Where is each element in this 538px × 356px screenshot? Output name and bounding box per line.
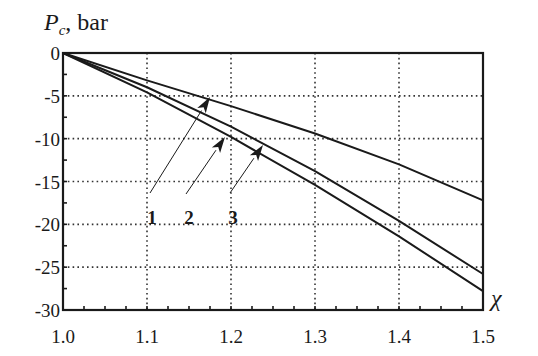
arrowhead-icon bbox=[212, 137, 225, 153]
y-tick-label: 0 bbox=[51, 43, 61, 64]
x-axis-title: χ bbox=[489, 285, 503, 311]
x-tick-label: 1.4 bbox=[387, 326, 411, 347]
curve-labels: 123 bbox=[147, 207, 238, 228]
x-tick-label: 1.0 bbox=[51, 326, 75, 347]
y-tick-label: -25 bbox=[35, 257, 60, 278]
y-tick-label: -30 bbox=[35, 300, 60, 321]
x-tick-label: 1.1 bbox=[135, 326, 159, 347]
arrow-1 bbox=[150, 111, 202, 193]
curve-2 bbox=[63, 53, 483, 291]
y-tick-label: -20 bbox=[35, 214, 60, 235]
curve-label-1: 1 bbox=[147, 207, 157, 228]
curve-3 bbox=[63, 53, 483, 274]
curve-label-2: 2 bbox=[184, 207, 194, 228]
x-tick-label: 1.3 bbox=[303, 326, 327, 347]
chart: 1.01.11.21.31.41.5 0-5-10-15-20-25-30 12… bbox=[0, 0, 538, 356]
arrow-3 bbox=[230, 158, 254, 193]
arrow-2 bbox=[186, 150, 216, 194]
y-tick-labels: 0-5-10-15-20-25-30 bbox=[35, 43, 60, 321]
y-axis-title: Pc, bar bbox=[43, 9, 108, 38]
y-tick-label: -15 bbox=[35, 172, 60, 193]
curve-label-3: 3 bbox=[228, 207, 238, 228]
x-tick-label: 1.5 bbox=[471, 326, 495, 347]
grid bbox=[63, 53, 483, 310]
y-tick-label: -10 bbox=[35, 129, 60, 150]
x-tick-labels: 1.01.11.21.31.41.5 bbox=[51, 326, 495, 347]
curve-1 bbox=[63, 53, 483, 200]
curves bbox=[63, 53, 483, 291]
y-tick-label: -5 bbox=[44, 86, 60, 107]
x-tick-label: 1.2 bbox=[219, 326, 243, 347]
